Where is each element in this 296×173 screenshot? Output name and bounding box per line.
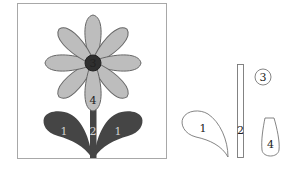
- right-leaf-label: 1: [115, 125, 122, 138]
- petal-label: 4: [90, 94, 97, 107]
- part-petal-label: 4: [267, 138, 274, 151]
- center-label: 3: [90, 57, 97, 70]
- flower-diagram: 3 4 2 1 1 1 2 3 4: [0, 0, 296, 173]
- left-leaf-label: 1: [61, 125, 68, 138]
- part-leaf-label: 1: [200, 122, 207, 135]
- part-center-label: 3: [260, 71, 267, 84]
- stem-label: 2: [90, 125, 97, 138]
- part-stem: [238, 65, 244, 158]
- part-stem-label: 2: [237, 124, 244, 137]
